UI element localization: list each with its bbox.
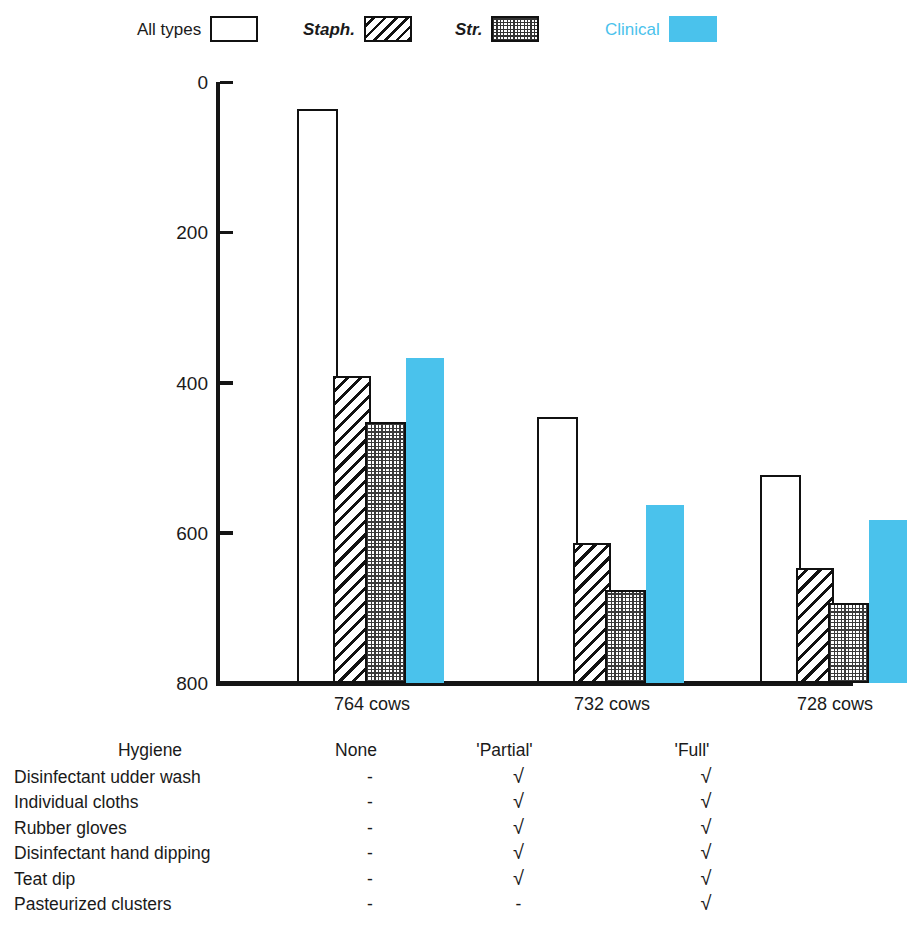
bar-all-types bbox=[297, 109, 338, 683]
table-header-row: Hygiene None 'Partial' 'Full' bbox=[0, 740, 890, 766]
table-row: Disinfectant udder wash-√√ bbox=[0, 766, 890, 792]
table-header-none: None bbox=[300, 740, 412, 761]
bar-all-types bbox=[760, 475, 801, 683]
table-body: Disinfectant udder wash-√√Individual clo… bbox=[0, 766, 890, 919]
table-cell-value: - bbox=[314, 894, 426, 915]
bar-group bbox=[760, 83, 911, 683]
bar-group bbox=[297, 83, 457, 683]
table-cell-value: √ bbox=[426, 791, 611, 811]
table-cell-value: - bbox=[314, 792, 426, 813]
bar-clinical bbox=[646, 505, 684, 683]
bar-clinical bbox=[869, 520, 907, 683]
table-row: Individual cloths-√√ bbox=[0, 791, 890, 817]
table-cell-value: √ bbox=[611, 766, 801, 786]
x-axis-label: 764 cows bbox=[292, 694, 452, 715]
bar-clinical bbox=[406, 358, 444, 683]
table-cell-value: √ bbox=[426, 868, 611, 888]
table-cell-value: - bbox=[426, 894, 611, 915]
table-cell-value: √ bbox=[611, 791, 801, 811]
table-cell-value: √ bbox=[611, 893, 801, 913]
bar-str bbox=[365, 422, 406, 683]
table-cell-value: - bbox=[314, 869, 426, 890]
table-cell-value: √ bbox=[611, 868, 801, 888]
bar-str bbox=[605, 590, 646, 683]
x-axis-label: 728 cows bbox=[755, 694, 911, 715]
bar-all-types bbox=[537, 417, 578, 683]
table-row: Rubber gloves-√√ bbox=[0, 817, 890, 843]
table-header-partial: 'Partial' bbox=[412, 740, 597, 761]
table-cell-practice: Disinfectant udder wash bbox=[0, 767, 314, 788]
table-row: Teat dip-√√ bbox=[0, 868, 890, 894]
bars-layer bbox=[0, 83, 890, 683]
table-cell-value: √ bbox=[426, 817, 611, 837]
table-cell-value: √ bbox=[426, 766, 611, 786]
table-row: Disinfectant hand dipping-√√ bbox=[0, 842, 890, 868]
table-cell-practice: Teat dip bbox=[0, 869, 314, 890]
table-cell-practice: Disinfectant hand dipping bbox=[0, 843, 314, 864]
bar-group bbox=[537, 83, 697, 683]
table-cell-practice: Individual cloths bbox=[0, 792, 314, 813]
table-cell-value: √ bbox=[611, 842, 801, 862]
table-cell-practice: Pasteurized clusters bbox=[0, 894, 314, 915]
table-cell-value: - bbox=[314, 767, 426, 788]
table-cell-value: √ bbox=[611, 817, 801, 837]
table-cell-value: - bbox=[314, 843, 426, 864]
hygiene-table: Hygiene None 'Partial' 'Full' Disinfecta… bbox=[0, 740, 890, 919]
bar-chart-plot: 8006004002000 764 cows732 cows728 cows bbox=[0, 0, 890, 700]
table-header-hygiene: Hygiene bbox=[0, 740, 300, 761]
table-cell-practice: Rubber gloves bbox=[0, 818, 314, 839]
table-cell-value: √ bbox=[426, 842, 611, 862]
table-header-full: 'Full' bbox=[597, 740, 787, 761]
bar-str bbox=[828, 603, 869, 683]
x-axis-label: 732 cows bbox=[532, 694, 692, 715]
table-cell-value: - bbox=[314, 818, 426, 839]
table-row: Pasteurized clusters--√ bbox=[0, 893, 890, 919]
